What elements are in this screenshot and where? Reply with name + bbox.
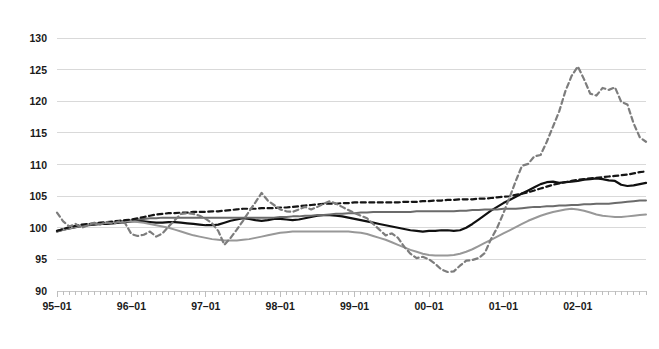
x-axis-tick-label: 96–01	[117, 300, 146, 312]
gridlines-group	[57, 38, 646, 291]
y-axis-tick-label: 90	[35, 285, 47, 297]
x-axis-tick-label: 01–01	[489, 300, 518, 312]
x-axis-tick-label: 98–01	[266, 300, 295, 312]
line-chart: 9095100105110115120125130 95–0196–0197–0…	[0, 0, 659, 349]
y-axis-tick-label: 120	[29, 95, 47, 107]
y-axis-tick-label: 100	[29, 222, 47, 234]
chart-canvas: 9095100105110115120125130 95–0196–0197–0…	[0, 0, 659, 349]
series-group	[57, 66, 646, 272]
y-axis-tick-label: 95	[35, 253, 47, 265]
y-axis-tick-label: 110	[30, 159, 47, 171]
x-axis-ticks-group	[57, 291, 646, 297]
y-axis-tick-label: 115	[30, 127, 47, 139]
y-axis-tick-label: 130	[29, 32, 47, 44]
x-axis-tick-label: 02–01	[563, 300, 592, 312]
x-axis-labels-group: 95–0196–0197–0198–0199–0100–0101–0102–01	[42, 300, 592, 312]
y-axis-labels-group: 9095100105110115120125130	[29, 32, 47, 297]
x-axis-tick-label: 97–01	[191, 300, 220, 312]
series-line-dashed-gray-volatile	[57, 66, 646, 272]
y-axis-tick-label: 125	[29, 64, 47, 76]
x-axis-tick-label: 99–01	[340, 300, 369, 312]
x-axis-tick-label: 95–01	[42, 300, 71, 312]
x-axis-tick-label: 00–01	[414, 300, 443, 312]
y-axis-tick-label: 105	[29, 190, 47, 202]
